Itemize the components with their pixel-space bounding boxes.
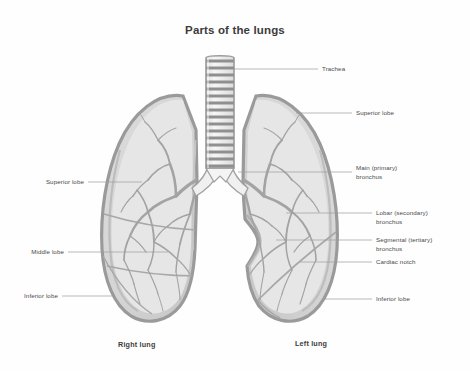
lung-diagram-page: Parts of the lungs [0,0,470,371]
label-superior-lobe-right-lung: Superior lobe [0,178,84,187]
left-lung-group [240,95,337,321]
label-lobar-bronchus: Lobar (secondary) bronchus [376,209,428,227]
label-segmental-bronchus: Segmental (tertiary) bronchus [376,236,432,254]
label-inferior-lobe-left-lung: Inferior lobe [376,295,410,304]
label-middle-lobe-right-lung: Middle lobe [0,248,64,257]
caption-left-lung: Left lung [295,339,327,348]
trachea-group [206,56,234,168]
label-cardiac-notch: Cardiac notch [376,258,415,267]
label-trachea: Trachea [322,65,345,74]
label-superior-lobe-left-lung: Superior lobe [356,109,394,118]
label-main-bronchus: Main (primary) bronchus [356,164,397,182]
caption-right-lung: Right lung [118,340,156,349]
main-bronchi-group [192,166,248,196]
label-inferior-lobe-right-lung: Inferior lobe [0,292,58,301]
right-lung-group [102,95,200,321]
